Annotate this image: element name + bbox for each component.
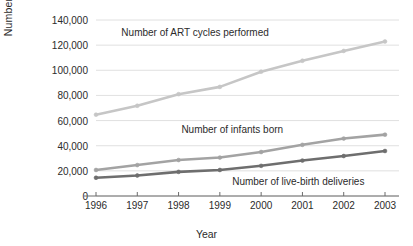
data-point: [177, 170, 181, 174]
data-point: [259, 164, 263, 168]
data-point: [259, 70, 263, 74]
data-point: [301, 59, 305, 63]
data-point: [177, 158, 181, 162]
data-point: [177, 92, 181, 96]
data-point: [135, 104, 139, 108]
series-label: Number of infants born: [181, 124, 283, 135]
data-point: [301, 159, 305, 163]
data-point: [383, 149, 387, 153]
data-point: [259, 150, 263, 154]
series-label: Number of ART cycles performed: [121, 27, 268, 38]
data-point: [301, 143, 305, 147]
series-line-0: [96, 41, 385, 114]
data-point: [218, 168, 222, 172]
data-point: [218, 156, 222, 160]
data-point: [383, 133, 387, 137]
art-cycles-line-chart: Number 020,00040,00060,00080,000100,0001…: [0, 0, 413, 246]
data-point: [94, 176, 98, 180]
data-point: [342, 137, 346, 141]
x-axis-tick-label: 1997: [126, 200, 148, 211]
data-point: [135, 163, 139, 167]
data-point: [383, 40, 387, 44]
x-axis-tick-label: 2000: [250, 200, 272, 211]
data-point: [342, 49, 346, 53]
x-axis-tick-label: 1996: [85, 200, 107, 211]
data-point: [218, 85, 222, 89]
x-axis-tick-label: 2001: [291, 200, 313, 211]
x-axis-tick-label: 2002: [333, 200, 355, 211]
x-axis-tick-label: 2003: [374, 200, 396, 211]
x-axis-tick-label: 1999: [209, 200, 231, 211]
data-point: [94, 168, 98, 172]
data-point: [135, 174, 139, 178]
data-point: [342, 154, 346, 158]
x-axis-tick-label: 1998: [167, 200, 189, 211]
series-label: Number of live-birth deliveries: [232, 176, 364, 187]
x-axis-title: Year: [0, 228, 413, 240]
data-point: [94, 113, 98, 117]
